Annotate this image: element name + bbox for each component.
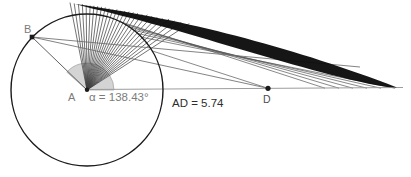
geogebra-canvas[interactable]: B A α = 138.43° AD = 5.74 D: [0, 0, 411, 177]
trace-segment: [134, 30, 367, 88]
trace-segment: [138, 34, 381, 89]
geometry-drawing[interactable]: B A α = 138.43° AD = 5.74 D: [0, 0, 411, 177]
angle-value-label[interactable]: α = 138.43°: [89, 91, 149, 103]
point-b-marker[interactable]: [30, 35, 35, 40]
point-b-label[interactable]: B: [24, 23, 31, 35]
segment-a-b: [32, 37, 87, 90]
fan-ray: [87, 15, 147, 90]
point-d-marker[interactable]: [265, 86, 270, 91]
ray-a-d: [87, 88, 403, 90]
trace-segment: [152, 51, 268, 88]
trace-segment: [130, 27, 354, 88]
line-ad-group: [87, 88, 403, 90]
point-a-label[interactable]: A: [68, 91, 76, 103]
distance-value-label[interactable]: AD = 5.74: [172, 97, 224, 109]
point-d-label[interactable]: D: [263, 93, 271, 105]
fan-ray: [87, 19, 169, 90]
